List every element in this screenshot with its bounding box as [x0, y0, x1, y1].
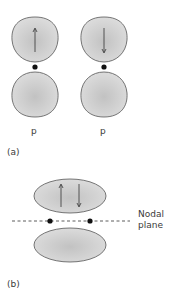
nodal-plane-label-line2: plane: [138, 220, 164, 231]
orbital-label-left: p: [31, 127, 37, 136]
nodal-plane-label: Nodal plane: [138, 209, 164, 231]
nucleus-dot-left: [47, 218, 52, 223]
upper-pi-lobe: [34, 179, 106, 213]
panel-a-label: (a): [7, 148, 20, 157]
nucleus-dot: [32, 64, 37, 69]
panel-b-label: (b): [7, 280, 20, 289]
p-orbital-left: [12, 17, 58, 117]
nucleus-dot-right: [87, 218, 92, 223]
lower-lobe: [81, 72, 127, 117]
pi-bond: [12, 179, 130, 262]
nodal-plane-label-line1: Nodal: [138, 209, 164, 220]
diagram-canvas: [0, 0, 176, 296]
lower-pi-lobe: [34, 228, 106, 262]
nucleus-dot: [101, 64, 106, 69]
orbital-label-right: p: [100, 127, 106, 136]
lower-lobe: [12, 72, 58, 117]
p-orbital-right: [81, 17, 127, 117]
